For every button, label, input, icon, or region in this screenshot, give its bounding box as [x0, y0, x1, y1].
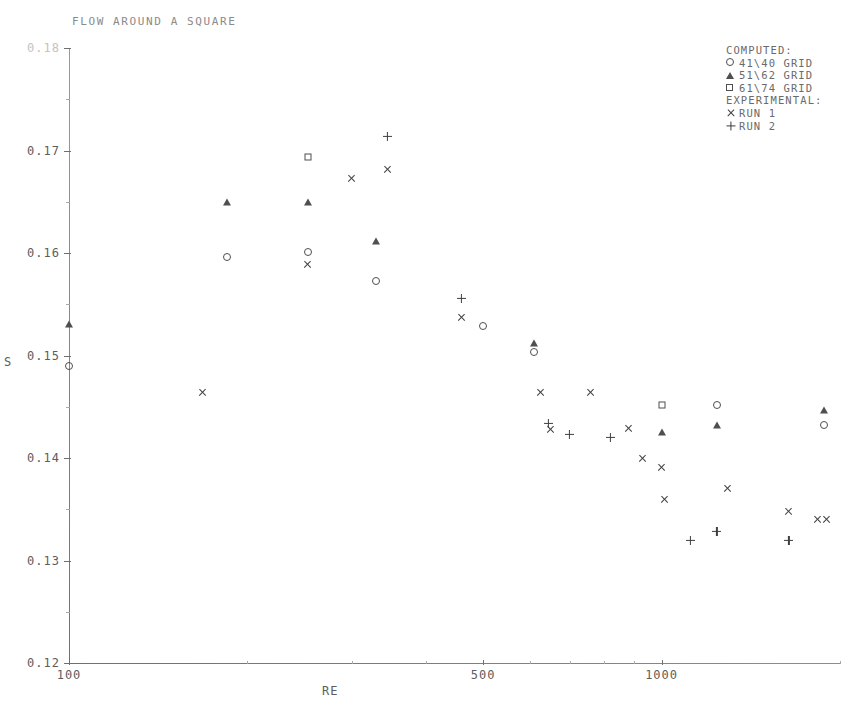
y-tick-minor [66, 304, 70, 305]
data-point-cross [383, 165, 392, 174]
triangle-marker-icon [726, 70, 735, 81]
data-point-triangle [820, 406, 828, 413]
legend-header-experimental: EXPERIMENTAL: [726, 94, 822, 107]
x-tick-minor [570, 661, 571, 664]
y-tick [64, 48, 71, 49]
data-point-circle [223, 253, 231, 261]
x-tick-minor [840, 661, 841, 664]
x-axis-line [69, 663, 840, 664]
x-tick [69, 660, 70, 665]
legend-item-label: RUN 1 [739, 107, 776, 120]
data-point-circle [479, 322, 487, 330]
y-tick [64, 356, 71, 357]
data-point-cross [660, 495, 669, 504]
y-tick-label: 0.15 [27, 349, 60, 363]
data-point-plus [544, 419, 553, 428]
data-point-plus [686, 536, 695, 545]
data-point-cross [657, 463, 666, 472]
y-tick-label: 0.12 [27, 656, 60, 670]
data-point-triangle [372, 237, 380, 244]
legend-item[interactable]: 51\62 GRID [726, 69, 822, 82]
data-point-plus [383, 132, 392, 141]
data-point-square [304, 153, 311, 160]
y-tick [64, 151, 71, 152]
data-point-triangle [658, 429, 666, 436]
y-tick-minor [66, 202, 70, 203]
cross-marker-icon [726, 108, 735, 119]
y-tick-label: 0.14 [27, 451, 60, 465]
plus-marker-icon [726, 120, 735, 131]
y-tick [64, 253, 71, 254]
data-point-square [658, 401, 665, 408]
legend-header-computed: COMPUTED: [726, 44, 822, 57]
data-point-cross [723, 484, 732, 493]
x-tick-minor [352, 661, 353, 664]
data-point-plus [784, 536, 793, 545]
data-point-cross [624, 424, 633, 433]
data-point-cross [813, 515, 822, 524]
chart-legend: COMPUTED: 41\40 GRID51\62 GRID61\74 GRID… [726, 44, 822, 132]
x-tick-minor [426, 661, 427, 664]
data-point-triangle [713, 422, 721, 429]
y-tick-label: 0.16 [27, 246, 60, 260]
square-marker-icon [726, 83, 735, 94]
y-axis-title: S [4, 355, 12, 369]
legend-item[interactable]: 41\40 GRID [726, 57, 822, 70]
x-tick [483, 660, 484, 665]
legend-group-experimental: RUN 1RUN 2 [726, 107, 822, 132]
data-point-plus [565, 430, 574, 439]
y-tick-minor [66, 99, 70, 100]
data-point-plus [712, 527, 721, 536]
x-tick-minor [634, 661, 635, 664]
x-tick-minor [247, 661, 248, 664]
chart-title: FLOW AROUND A SQUARE [72, 15, 236, 28]
y-tick [64, 561, 71, 562]
data-point-cross [536, 388, 545, 397]
data-point-cross [198, 388, 207, 397]
data-point-circle [530, 348, 538, 356]
x-tick-minor [604, 661, 605, 664]
legend-item[interactable]: 61\74 GRID [726, 82, 822, 95]
x-tick-label: 500 [471, 668, 496, 682]
x-tick [662, 660, 663, 665]
y-tick-label: 0.18 [27, 41, 60, 55]
x-tick-minor [530, 661, 531, 664]
legend-item[interactable]: RUN 2 [726, 120, 822, 133]
data-point-cross [303, 260, 312, 269]
y-tick-minor [66, 612, 70, 613]
legend-group-computed: 41\40 GRID51\62 GRID61\74 GRID [726, 57, 822, 95]
x-tick-label: 1000 [645, 668, 678, 682]
data-point-circle [713, 401, 721, 409]
data-point-plus [606, 433, 615, 442]
data-point-circle [304, 248, 312, 256]
data-point-circle [820, 421, 828, 429]
data-point-triangle [530, 340, 538, 347]
y-tick-minor [66, 509, 70, 510]
data-point-cross [638, 454, 647, 463]
data-point-cross [457, 313, 466, 322]
legend-item[interactable]: RUN 1 [726, 107, 822, 120]
data-point-circle [372, 277, 380, 285]
data-point-plus [457, 294, 466, 303]
y-tick-minor [66, 407, 70, 408]
data-point-cross [586, 388, 595, 397]
x-tick-label: 100 [57, 668, 82, 682]
x-axis-title: RE [322, 684, 338, 698]
data-point-cross [822, 515, 831, 524]
y-tick-label: 0.17 [27, 144, 60, 158]
legend-item-label: RUN 2 [739, 120, 776, 133]
legend-item-label: 61\74 GRID [739, 82, 813, 95]
y-tick-label: 0.13 [27, 554, 60, 568]
data-point-triangle [65, 320, 73, 327]
y-tick [64, 458, 71, 459]
data-point-cross [784, 507, 793, 516]
circle-marker-icon [726, 57, 735, 68]
data-point-circle [65, 362, 73, 370]
data-point-triangle [304, 198, 312, 205]
chart-canvas: FLOW AROUND A SQUARE 0.180.170.160.150.1… [0, 0, 860, 719]
data-point-triangle [223, 198, 231, 205]
legend-item-label: 41\40 GRID [739, 57, 813, 70]
legend-item-label: 51\62 GRID [739, 69, 813, 82]
data-point-cross [347, 174, 356, 183]
